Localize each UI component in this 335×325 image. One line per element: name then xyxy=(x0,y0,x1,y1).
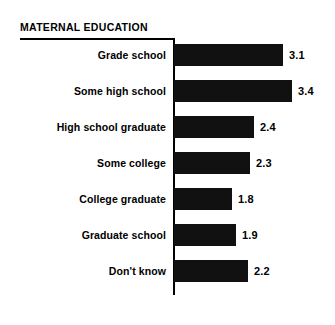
bar-category-label: Grade school xyxy=(98,44,166,66)
bar-row: Some high school 3.4 xyxy=(0,80,335,102)
bar-category-label: Some high school xyxy=(74,80,166,102)
bar-rect xyxy=(174,44,283,66)
bar-value-label: 1.9 xyxy=(242,224,258,246)
bar-category-label: College graduate xyxy=(79,188,166,210)
bar-row: Don't know 2.2 xyxy=(0,260,335,282)
bar-value-label: 2.2 xyxy=(254,260,270,282)
bar-category-label: Don't know xyxy=(109,260,166,282)
bar-rect xyxy=(174,152,250,174)
bar-category-label: Graduate school xyxy=(82,224,166,246)
bar-value-label: 2.4 xyxy=(260,116,276,138)
bar-row: Graduate school 1.9 xyxy=(0,224,335,246)
bar-category-label: Some college xyxy=(97,152,166,174)
bar-value-label: 1.8 xyxy=(238,188,254,210)
bar-rect xyxy=(174,116,254,138)
bar-chart-figure: MATERNAL EDUCATION Grade school 3.1 Some… xyxy=(0,0,335,325)
bar-row: Grade school 3.1 xyxy=(0,44,335,66)
bar-category-label: High school graduate xyxy=(57,116,166,138)
plot-area: Grade school 3.1 Some high school 3.4 Hi… xyxy=(0,40,335,298)
bar-value-label: 3.4 xyxy=(298,80,314,102)
bar-rect xyxy=(174,224,236,246)
bar-rect xyxy=(174,188,232,210)
bar-rect xyxy=(174,260,248,282)
bar-value-label: 3.1 xyxy=(289,44,305,66)
bar-row: Some college 2.3 xyxy=(0,152,335,174)
bar-row: College graduate 1.8 xyxy=(0,188,335,210)
bar-rect xyxy=(174,80,292,102)
bar-value-label: 2.3 xyxy=(256,152,272,174)
chart-title: MATERNAL EDUCATION xyxy=(20,21,148,33)
bar-row: High school graduate 2.4 xyxy=(0,116,335,138)
